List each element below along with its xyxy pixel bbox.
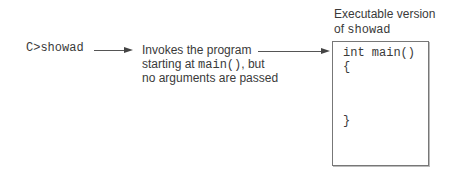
description-line-2-prefix: starting at <box>142 57 198 71</box>
arrow-line-1 <box>94 50 124 51</box>
arrow-line-2 <box>258 51 321 52</box>
code-line-open-brace: { <box>343 60 350 74</box>
command-text: C>showad <box>26 41 84 55</box>
description-line-2-code: main() <box>198 58 241 72</box>
executable-label-code: showad <box>347 23 390 37</box>
description-line-2-suffix: , but <box>241 57 264 71</box>
code-line-close-brace: } <box>343 114 350 128</box>
executable-label-line-2: of showad <box>334 22 391 37</box>
executable-box: int main() { } <box>332 41 429 166</box>
executable-label-line-1: Executable version <box>334 7 435 21</box>
code-line-main: int main() <box>343 46 415 60</box>
arrowhead-1-icon <box>124 47 133 53</box>
arrowhead-2-icon <box>321 48 330 54</box>
description-line-1: Invokes the program <box>142 43 251 57</box>
description-line-2: starting at main(), but <box>142 57 265 72</box>
description-line-3: no arguments are passed <box>142 71 278 85</box>
executable-label-prefix: of <box>334 22 347 36</box>
